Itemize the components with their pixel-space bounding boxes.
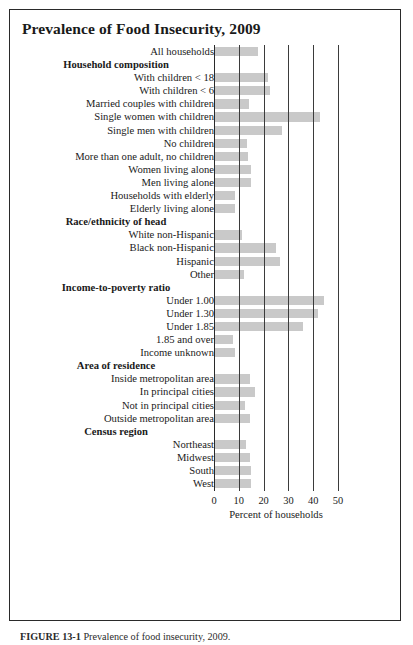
- bar-row-label: No children: [164, 137, 214, 150]
- bar-row-label: More than one adult, no children: [75, 150, 214, 163]
- bar: [214, 165, 251, 174]
- bar-row-label: Other: [190, 268, 214, 281]
- figure-frame: Prevalence of Food Insecurity, 2009 All …: [9, 9, 401, 621]
- x-tick-50: 50: [326, 494, 350, 508]
- chart-bar-row: Inside metropolitan area: [10, 372, 400, 385]
- bar-row-label: Under 1.00: [166, 294, 214, 307]
- bar: [214, 243, 276, 252]
- bar: [214, 112, 320, 121]
- section-label: Area of residence: [10, 359, 400, 372]
- bar: [214, 440, 246, 449]
- bar: [214, 309, 318, 318]
- bar: [214, 348, 235, 357]
- chart-bar-row: Households with elderly: [10, 189, 400, 202]
- chart-bar-row: More than one adult, no children: [10, 150, 400, 163]
- chart-bar-row: All households: [10, 45, 400, 58]
- x-axis-tick-labels: 01020304050: [10, 494, 400, 508]
- x-tick-10: 10: [227, 494, 251, 508]
- bar-row-label: Income unknown: [140, 346, 214, 359]
- section-label: Household composition: [10, 58, 400, 71]
- bar-row-label: Inside metropolitan area: [111, 372, 214, 385]
- chart-bar-row: Northeast: [10, 438, 400, 451]
- chart-bar-row: Hispanic: [10, 255, 400, 268]
- chart-bar-row: Black non-Hispanic: [10, 241, 400, 254]
- bar-row-label: Single women with children: [94, 110, 214, 123]
- x-tick-0: 0: [202, 494, 226, 508]
- chart-bar-row: With children < 18: [10, 71, 400, 84]
- bar: [214, 335, 233, 344]
- chart-bar-row: Other: [10, 268, 400, 281]
- bar-row-label: All households: [150, 45, 214, 58]
- chart-bar-row: Women living alone: [10, 163, 400, 176]
- bar-row-label: With children < 6: [139, 84, 214, 97]
- figure-caption-text: Prevalence of food insecurity, 2009.: [83, 631, 230, 642]
- bar: [214, 126, 282, 135]
- chart-bar-row: Elderly living alone: [10, 202, 400, 215]
- bar-row-label: Not in principal cities: [122, 399, 214, 412]
- x-axis-title: Percent of households: [214, 509, 338, 520]
- bar: [214, 204, 235, 213]
- chart-bar-row: No children: [10, 137, 400, 150]
- chart-bar-row: Single women with children: [10, 110, 400, 123]
- bar: [214, 401, 245, 410]
- chart-bar-row: Single men with children: [10, 124, 400, 137]
- bar: [214, 86, 270, 95]
- section-label: Income-to-poverty ratio: [10, 281, 400, 294]
- figure-caption: FIGURE 13-1 Prevalence of food insecurit…: [20, 630, 400, 643]
- chart-bar-row: Outside metropolitan area: [10, 412, 400, 425]
- bar-row-label: Women living alone: [128, 163, 214, 176]
- chart-bar-row: Under 1.30: [10, 307, 400, 320]
- bar: [214, 152, 248, 161]
- figure-caption-label: FIGURE 13-1: [20, 631, 81, 642]
- bar-row-label: In principal cities: [140, 385, 214, 398]
- bar-row-label: Married couples with children: [86, 97, 214, 110]
- chart-bar-row: Under 1.00: [10, 294, 400, 307]
- bar-row-label: Northeast: [173, 438, 214, 451]
- chart-bar-row: Income unknown: [10, 346, 400, 359]
- section-label: Race/ethnicity of head: [10, 215, 400, 228]
- bar-row-label: South: [189, 464, 214, 477]
- chart-bar-row: White non-Hispanic: [10, 228, 400, 241]
- bar-row-label: Outside metropolitan area: [104, 412, 214, 425]
- chart-bar-row: Midwest: [10, 451, 400, 464]
- bar-row-label: Midwest: [177, 451, 214, 464]
- bar-row-label: 1.85 and over: [156, 333, 214, 346]
- chart-bar-row: West: [10, 477, 400, 490]
- bar: [214, 322, 303, 331]
- chart-bar-row: Not in principal cities: [10, 399, 400, 412]
- bar: [214, 479, 251, 488]
- bar-row-label: Black non-Hispanic: [130, 241, 214, 254]
- chart-section-header: Census region: [10, 425, 400, 438]
- bar-row-label: Under 1.30: [166, 307, 214, 320]
- bar: [214, 139, 247, 148]
- chart-bar-row: Married couples with children: [10, 97, 400, 110]
- bar: [214, 466, 251, 475]
- chart-section-header: Race/ethnicity of head: [10, 215, 400, 228]
- page-title: Prevalence of Food Insecurity, 2009: [22, 20, 261, 38]
- bar-row-label: Single men with children: [107, 124, 214, 137]
- chart-section-header: Area of residence: [10, 359, 400, 372]
- bar: [214, 257, 280, 266]
- bar: [214, 178, 251, 187]
- bar: [214, 99, 249, 108]
- bar-row-label: Men living alone: [142, 176, 214, 189]
- bar: [214, 73, 268, 82]
- bar-row-label: White non-Hispanic: [128, 228, 214, 241]
- bar: [214, 230, 242, 239]
- bar-row-label: West: [193, 477, 214, 490]
- bar: [214, 191, 235, 200]
- bar: [214, 414, 250, 423]
- chart-section-header: Household composition: [10, 58, 400, 71]
- chart-bar-row: 1.85 and over: [10, 333, 400, 346]
- chart-section-header: Income-to-poverty ratio: [10, 281, 400, 294]
- bar: [214, 453, 250, 462]
- bar: [214, 296, 324, 305]
- x-tick-30: 30: [276, 494, 300, 508]
- chart-bar-row: With children < 6: [10, 84, 400, 97]
- bar: [214, 387, 255, 396]
- bar: [214, 374, 250, 383]
- bar-row-label: Under 1.85: [166, 320, 214, 333]
- bar: [214, 270, 244, 279]
- chart-bar-row: In principal cities: [10, 385, 400, 398]
- chart-bar-row: South: [10, 464, 400, 477]
